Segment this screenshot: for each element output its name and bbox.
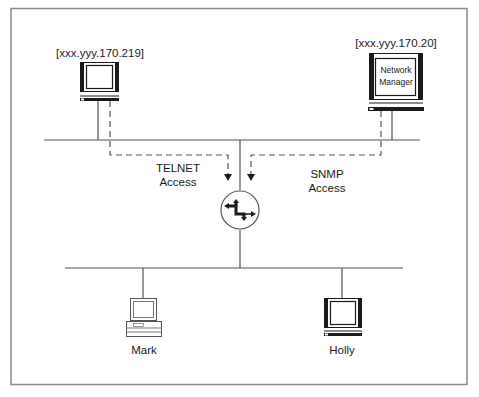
router-node[interactable] (221, 191, 259, 229)
holly-node[interactable]: Holly (324, 268, 362, 356)
mark-label: Mark (131, 344, 157, 356)
telnet-access-label-line2: Access (159, 176, 196, 188)
router-icon (221, 191, 259, 229)
network-manager-address: [xxx.yyy.170.20] (355, 37, 437, 49)
monitor-icon: Network Manager (368, 53, 424, 111)
snmp-access-label-line2: Access (308, 182, 345, 194)
network-manager-screen-line2: Manager (379, 77, 413, 87)
telnet-access-path: TELNET Access (110, 101, 232, 188)
desktop-computer-icon (127, 299, 162, 337)
telnet-access-label: TELNET (156, 162, 200, 174)
network-diagram: [xxx.yyy.170.219] [xxx.yyy.170.20] Netwo… (0, 0, 479, 397)
snmp-access-label: SNMP (310, 168, 344, 180)
network-manager-node[interactable]: [xxx.yyy.170.20] Network Manager (355, 37, 437, 140)
snmp-access-path: SNMP Access (247, 111, 381, 194)
holly-label: Holly (329, 344, 355, 356)
mark-node[interactable]: Mark (127, 268, 162, 356)
arrow-down-icon (247, 174, 255, 181)
telnet-host-node[interactable]: [xxx.yyy.170.219] (56, 47, 144, 140)
network-manager-screen-line1: Network (380, 65, 412, 75)
telnet-host-address: [xxx.yyy.170.219] (56, 47, 144, 59)
monitor-icon (80, 62, 119, 101)
monitor-icon (324, 298, 362, 336)
arrow-down-icon (224, 174, 232, 181)
